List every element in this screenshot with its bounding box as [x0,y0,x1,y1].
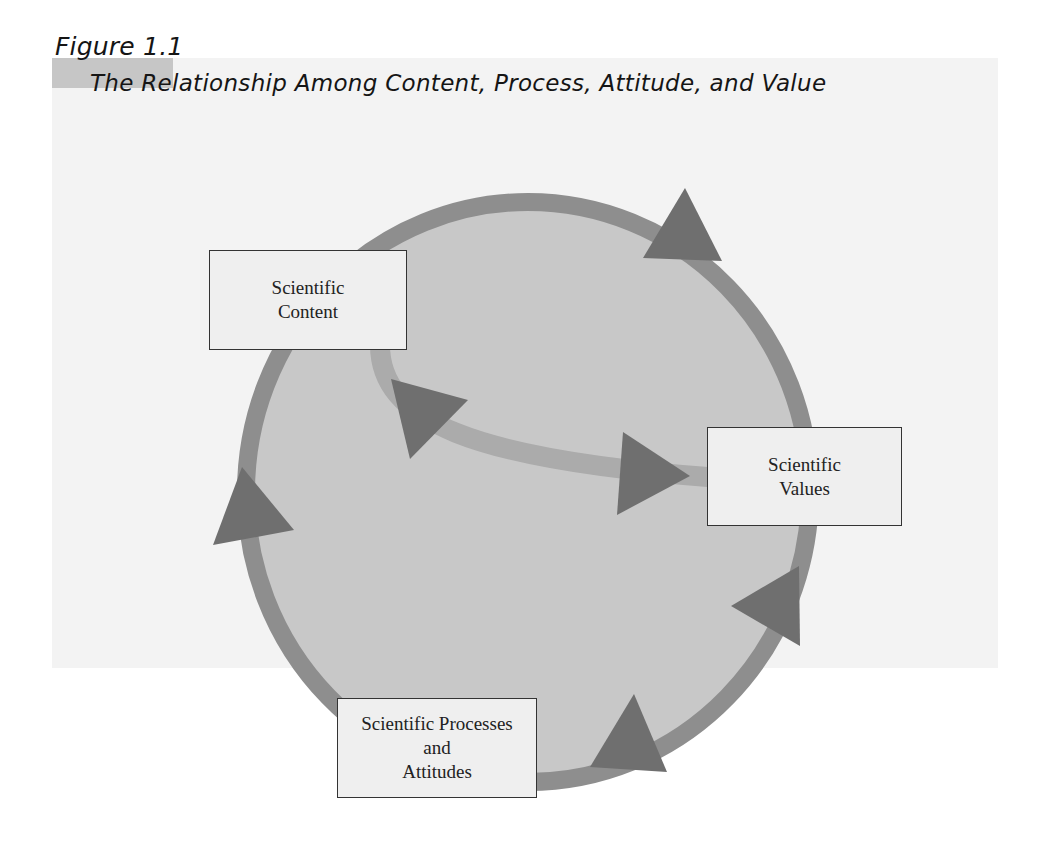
node-values-line2: Values [779,477,830,501]
node-scientific-content: Scientific Content [209,250,407,350]
node-values-line1: Scientific [768,453,841,477]
node-content-line1: Scientific [272,276,345,300]
node-scientific-values: Scientific Values [707,427,902,526]
node-processes-line3: Attitudes [402,760,472,784]
node-scientific-processes-attitudes: Scientific Processes and Attitudes [337,698,537,798]
node-processes-line1: Scientific Processes [361,712,512,736]
node-processes-line2: and [423,736,450,760]
node-content-line2: Content [278,300,338,324]
